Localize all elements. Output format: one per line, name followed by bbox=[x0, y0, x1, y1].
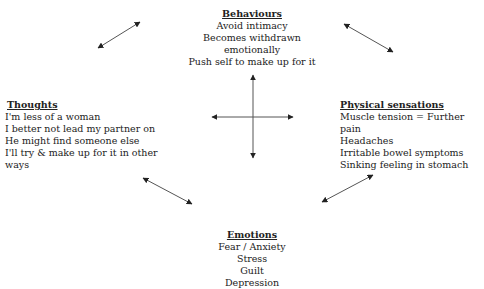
arrow-thoughts-behaviours bbox=[98, 22, 140, 48]
physical-sensations-item: Sinking feeling in stomach bbox=[340, 159, 484, 171]
physical-sensations-item: Headaches bbox=[340, 135, 484, 147]
behaviours-title: Behaviours bbox=[180, 8, 324, 20]
thoughts-item: He might find someone else bbox=[5, 135, 175, 147]
thoughts-item: I'll try & make up for it in other ways bbox=[5, 147, 175, 171]
behaviours-block: Behaviours Avoid intimacy Becomes withdr… bbox=[180, 8, 324, 68]
behaviours-item: Push self to make up for it bbox=[180, 56, 324, 68]
thoughts-item: I better not lead my partner on bbox=[5, 123, 175, 135]
physical-sensations-item: Muscle tension = Further pain bbox=[340, 111, 484, 135]
thoughts-title: Thoughts bbox=[5, 99, 175, 111]
emotions-item: Stress bbox=[190, 253, 314, 265]
emotions-item: Depression bbox=[190, 277, 314, 289]
emotions-title: Emotions bbox=[190, 229, 314, 241]
emotions-item: Guilt bbox=[190, 265, 314, 277]
behaviours-item: Becomes withdrawn emotionally bbox=[180, 32, 324, 56]
emotions-item: Fear / Anxiety bbox=[190, 241, 314, 253]
arrow-emotions-physical bbox=[322, 175, 373, 202]
physical-sensations-title: Physical sensations bbox=[340, 99, 484, 111]
physical-sensations-block: Physical sensations Muscle tension = Fur… bbox=[340, 99, 484, 171]
thoughts-item: I'm less of a woman bbox=[5, 111, 175, 123]
emotions-block: Emotions Fear / Anxiety Stress Guilt Dep… bbox=[190, 229, 314, 289]
behaviours-item: Avoid intimacy bbox=[180, 20, 324, 32]
thoughts-block: Thoughts I'm less of a woman I better no… bbox=[5, 99, 175, 171]
arrow-thoughts-emotions bbox=[143, 178, 192, 204]
physical-sensations-item: Irritable bowel symptoms bbox=[340, 147, 484, 159]
arrow-behaviours-physical bbox=[344, 24, 393, 52]
